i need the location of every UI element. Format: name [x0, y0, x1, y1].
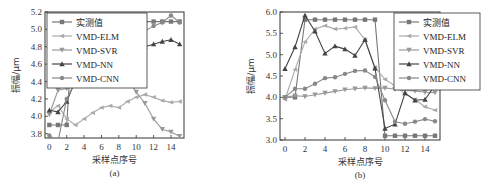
- data-point: [116, 105, 121, 109]
- x-tick-label: 10: [381, 144, 391, 154]
- x-tick-label: 14: [166, 142, 176, 152]
- x-tick-label: 12: [149, 142, 158, 152]
- data-point: [342, 26, 347, 30]
- y-axis-label: 振幅/μm: [245, 58, 256, 94]
- data-point: [168, 100, 173, 104]
- data-point: [313, 17, 317, 21]
- data-point: [303, 87, 307, 91]
- data-point: [65, 123, 69, 127]
- data-point: [47, 123, 51, 127]
- y-tick-label: 4.0: [266, 92, 278, 102]
- data-point: [168, 130, 173, 135]
- data-point: [353, 17, 357, 21]
- data-point: [363, 68, 367, 72]
- legend: 实测值VMD-ELMVMD-SVRVMD-NNVMD-CNN: [394, 13, 480, 90]
- data-point: [413, 119, 417, 123]
- x-tick-label: 4: [323, 144, 328, 154]
- data-point: [332, 27, 337, 31]
- data-point: [47, 133, 51, 137]
- data-point: [352, 25, 357, 29]
- data-point: [283, 95, 287, 99]
- data-point: [373, 75, 377, 79]
- legend: 实测值VMD-ELMVMD-SVRVMD-NNVMD-CNN: [47, 13, 147, 88]
- y-tick-label: 4.5: [266, 71, 278, 81]
- data-point: [177, 20, 181, 24]
- data-point: [423, 134, 427, 138]
- y-tick-label: 4.2: [31, 94, 42, 104]
- data-point: [407, 76, 411, 80]
- data-point: [151, 24, 155, 28]
- x-tick-label: 0: [283, 144, 288, 154]
- panel-caption: (a): [110, 168, 120, 178]
- data-point: [107, 104, 112, 108]
- data-point: [433, 119, 437, 123]
- data-point: [373, 17, 377, 21]
- data-point: [333, 17, 337, 21]
- data-point: [282, 66, 287, 71]
- chart-panel-a: 3.84.04.24.44.64.85.05.202468101214采样点序号…: [10, 0, 184, 178]
- data-point: [169, 19, 173, 23]
- x-axis-label: 采样点序号: [338, 156, 383, 167]
- data-point: [333, 75, 337, 79]
- y-axis-label: 振幅/μm: [10, 57, 21, 93]
- y-tick-label: 5.0: [266, 50, 278, 60]
- y-tick-label: 4.0: [31, 111, 43, 121]
- data-point: [413, 134, 417, 138]
- data-point: [177, 99, 182, 103]
- data-point: [302, 13, 307, 18]
- panel-caption: (b): [355, 170, 366, 180]
- y-tick-label: 5.2: [31, 7, 42, 17]
- data-point: [393, 119, 397, 123]
- data-point: [332, 43, 337, 48]
- x-tick-label: 8: [117, 142, 122, 152]
- data-point: [343, 17, 347, 21]
- data-point: [151, 19, 155, 23]
- data-point: [323, 17, 327, 21]
- data-point: [352, 53, 357, 58]
- data-point: [403, 122, 407, 126]
- y-tick-label: 5.0: [31, 24, 43, 34]
- y-tick-label: 3.8: [31, 129, 43, 139]
- legend-label: VMD-CNN: [76, 74, 120, 84]
- data-point: [293, 87, 297, 91]
- data-point: [160, 20, 164, 24]
- data-point: [432, 108, 437, 112]
- data-point: [403, 134, 407, 138]
- x-tick-label: 2: [303, 144, 308, 154]
- y-tick-label: 4.4: [31, 77, 43, 87]
- data-point: [177, 41, 182, 46]
- x-tick-label: 12: [401, 144, 410, 154]
- data-point: [169, 13, 173, 17]
- x-tick-label: 6: [99, 142, 104, 152]
- data-point: [383, 98, 387, 102]
- data-point: [407, 20, 411, 24]
- y-tick-label: 4.8: [31, 42, 43, 52]
- data-point: [292, 44, 297, 49]
- data-point: [343, 72, 347, 76]
- x-tick-label: 0: [47, 142, 52, 152]
- data-point: [313, 81, 317, 85]
- legend-label: 实测值: [76, 17, 103, 28]
- data-point: [393, 134, 397, 138]
- data-point: [423, 117, 427, 121]
- x-tick-label: 10: [132, 142, 142, 152]
- x-tick-label: 8: [363, 144, 368, 154]
- data-point: [60, 20, 64, 24]
- data-point: [142, 92, 147, 96]
- legend-label: VMD-SVR: [76, 46, 118, 56]
- data-point: [56, 123, 60, 127]
- data-point: [168, 37, 173, 42]
- data-point: [383, 134, 387, 138]
- data-point: [142, 101, 147, 106]
- x-tick-label: 4: [82, 142, 87, 152]
- y-tick-label: 3.5: [266, 114, 278, 124]
- legend-label: VMD-CNN: [423, 74, 467, 84]
- data-point: [353, 69, 357, 73]
- legend-label: VMD-SVR: [423, 46, 465, 56]
- y-tick-label: 4.6: [31, 59, 43, 69]
- legend-label: VMD-NN: [423, 60, 460, 70]
- data-point: [60, 76, 64, 80]
- x-tick-label: 2: [64, 142, 69, 152]
- data-point: [322, 23, 327, 27]
- y-tick-label: 5.5: [266, 28, 278, 38]
